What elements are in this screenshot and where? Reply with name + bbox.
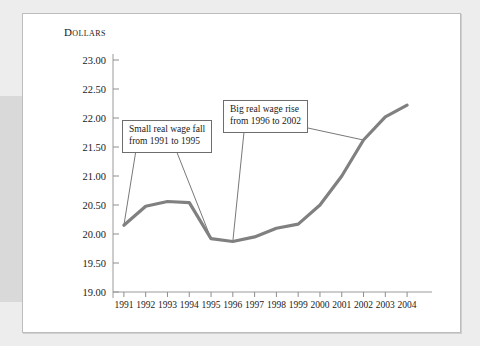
annotation-callout-small-fall: Small real wage fall from 1991 to 1995 (122, 120, 212, 153)
svg-text:19.50: 19.50 (82, 258, 106, 269)
plot-area: Dollars 23.0022.5022.0021.5021.0020.5020… (48, 20, 436, 320)
svg-text:1995: 1995 (202, 300, 221, 310)
svg-text:2000: 2000 (310, 300, 329, 310)
svg-text:1999: 1999 (289, 300, 308, 310)
svg-text:1996: 1996 (223, 300, 242, 310)
svg-text:21.50: 21.50 (82, 142, 106, 153)
svg-text:1993: 1993 (158, 300, 177, 310)
svg-text:1992: 1992 (136, 300, 155, 310)
svg-text:20.50: 20.50 (82, 200, 106, 211)
annotation-callout-big-rise: Big real wage rise from 1996 to 2002 (223, 100, 308, 133)
svg-text:22.00: 22.00 (82, 113, 106, 124)
svg-text:2001: 2001 (332, 300, 351, 310)
svg-text:21.00: 21.00 (82, 171, 106, 182)
x-axis: 1991199219931994199519961997199819992000… (113, 292, 432, 310)
svg-text:19.00: 19.00 (82, 287, 106, 298)
svg-text:1994: 1994 (180, 300, 199, 310)
svg-text:20.00: 20.00 (82, 229, 106, 240)
chart-page: Dollars 23.0022.5022.0021.5021.0020.5020… (0, 0, 480, 346)
svg-text:1991: 1991 (114, 300, 133, 310)
y-axis: 23.0022.5022.0021.5021.0020.5020.0019.50… (82, 54, 119, 298)
svg-text:1998: 1998 (267, 300, 286, 310)
svg-text:2002: 2002 (354, 300, 373, 310)
svg-text:23.00: 23.00 (82, 55, 106, 66)
svg-text:2003: 2003 (376, 300, 395, 310)
left-accent-band (0, 96, 22, 302)
svg-text:22.50: 22.50 (82, 84, 106, 95)
svg-text:1997: 1997 (245, 300, 264, 310)
line-chart-svg: 23.0022.5022.0021.5021.0020.5020.0019.50… (48, 20, 436, 320)
svg-text:2004: 2004 (398, 300, 417, 310)
